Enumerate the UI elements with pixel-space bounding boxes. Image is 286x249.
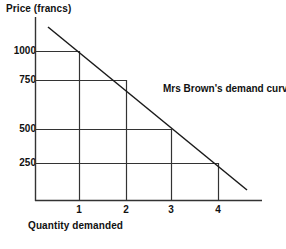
demand-curve-line — [48, 27, 247, 190]
chart-plot-area — [0, 0, 286, 249]
demand-curve-chart: Price (francs) Quantity demanded 1000 75… — [0, 0, 286, 249]
